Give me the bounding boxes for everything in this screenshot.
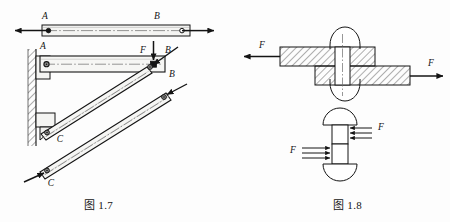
two-force-member-group: A B <box>15 11 214 36</box>
label-top-bar-a: A <box>41 11 48 21</box>
label-bracket-force-f: F <box>139 45 146 55</box>
rivet-head-bottom-outline <box>330 83 360 101</box>
caption-figure-1-7: 图 1.7 <box>84 196 113 212</box>
label-strut-upper-c: C <box>57 134 64 144</box>
strut-lower-force-arrow-bottom <box>24 173 44 182</box>
figure-1-8: F F F F <box>230 0 450 195</box>
rivet-free-head-bottom <box>323 164 357 181</box>
strut-upper-centerline <box>46 73 147 137</box>
rivet-head-top-outline <box>330 27 360 45</box>
rivet-shear-group: F F <box>289 108 384 181</box>
bracket-pin-a-center <box>46 63 48 65</box>
label-rivet-force-lower: F <box>289 145 296 155</box>
rivet-free-shank-upper <box>332 125 348 144</box>
rivet-free-head-top <box>323 108 357 125</box>
riveted-joint-group: F F <box>244 27 443 101</box>
rivet-free-shank-lower <box>332 144 348 164</box>
label-strut-upper-b: B <box>169 69 175 79</box>
strut-upper-inner-edge <box>44 71 150 138</box>
label-rivet-force-upper: F <box>377 122 384 132</box>
joint-upper-plate <box>280 47 375 66</box>
figure-1-7: A B A F B <box>0 0 230 195</box>
label-top-bar-b: B <box>154 11 160 21</box>
label-strut-lower-c: C <box>48 178 55 188</box>
caption-figure-1-8: 图 1.8 <box>333 196 362 212</box>
strut-lower-force-arrow-top <box>167 84 187 95</box>
strut-lower-pin-c-center <box>46 170 48 172</box>
figure-page: A B A F B <box>0 0 450 222</box>
bracket-lower-mount-block <box>36 113 55 127</box>
strut-upper-pin-c-center <box>46 132 48 134</box>
label-joint-force-right: F <box>427 58 434 68</box>
wall-hatch-band <box>28 49 36 146</box>
strut-upper-pin-b-center <box>149 66 151 68</box>
strut-lower-pin-b-center <box>163 96 165 98</box>
joint-lower-plate <box>315 66 410 85</box>
label-joint-force-left: F <box>258 40 265 50</box>
wall-group <box>28 49 36 146</box>
label-bracket-a: A <box>39 41 46 51</box>
